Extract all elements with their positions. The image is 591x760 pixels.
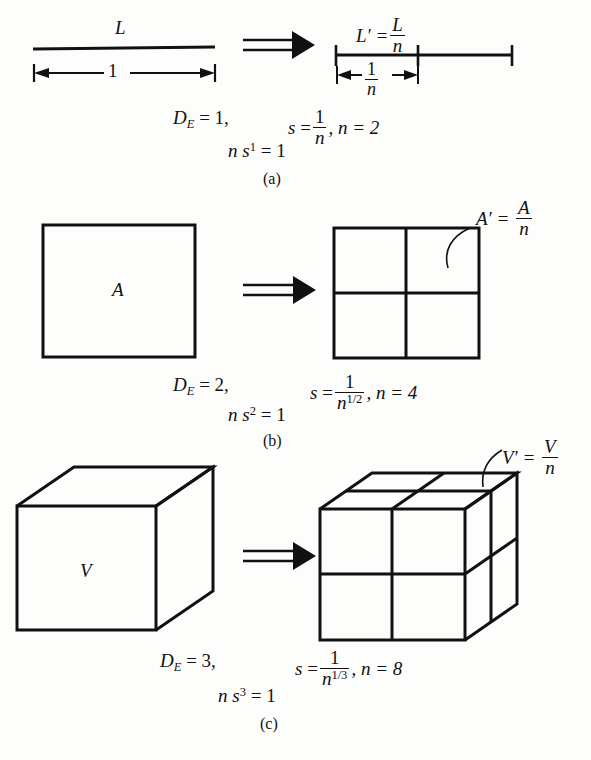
panel-a-left-arrowhead-right	[200, 68, 215, 78]
panel-a-left-segment	[33, 47, 215, 49]
panel-c-leader-line	[483, 450, 502, 487]
panel-a-left-measure	[34, 64, 215, 82]
panel-c-implies-arrow	[243, 551, 300, 561]
panel-a-piece-arrowhead-right	[404, 70, 418, 80]
panel-a-left-arrowhead-left	[34, 68, 49, 78]
panel-b-right-square-dividers	[334, 228, 479, 358]
panel-a-formula-DE: DE = 1,	[173, 107, 229, 132]
panel-b-leader-line	[447, 228, 470, 268]
panel-a-implies-arrow	[243, 40, 300, 50]
panel-c-formula-ns: n s3 = 1	[218, 685, 276, 707]
panel-c-left-cube	[17, 467, 213, 630]
panel-a-piece-arrowhead-left	[337, 70, 351, 80]
figure-root: L 1 L′ =Ln 1n DE = 1, s =1n, n = 2 n s1 …	[0, 0, 591, 760]
panel-a-label-piece-fraction: 1n	[363, 60, 380, 98]
panel-b-formula-DE: DE = 2,	[173, 374, 229, 399]
panel-b-formula-ns: n s2 = 1	[228, 404, 286, 426]
panel-c-implies-head	[293, 542, 316, 570]
panel-b-label-A: A	[112, 279, 124, 301]
panel-c-label-V: V	[80, 560, 92, 582]
panel-c-formula-s: s =1n1/3, n = 8	[295, 648, 402, 688]
panel-b-caption: (b)	[263, 432, 282, 450]
panel-a-label-unit: 1	[108, 60, 118, 82]
panel-a-caption: (a)	[263, 170, 281, 188]
panel-a-formula-s: s =1n, n = 2	[288, 107, 379, 147]
panel-c-caption: (c)	[260, 715, 278, 733]
panel-a-implies-head	[292, 31, 315, 59]
panel-b-implies-head	[293, 276, 316, 304]
panel-b-label-Aprime: A′ = An	[476, 198, 534, 238]
panel-a-label-L: L	[115, 17, 126, 39]
panel-a-formula-ns: n s1 = 1	[228, 140, 286, 162]
panel-b-implies-arrow	[243, 285, 300, 295]
panel-b-formula-s: s =1n1/2, n = 4	[310, 372, 417, 412]
panel-c-label-Vprime: V′ = Vn	[502, 437, 560, 477]
panel-c-formula-DE: DE = 3,	[160, 650, 216, 675]
panel-c-right-cube	[320, 473, 517, 640]
panel-a-label-Lprime: L′ =Ln	[356, 15, 407, 55]
